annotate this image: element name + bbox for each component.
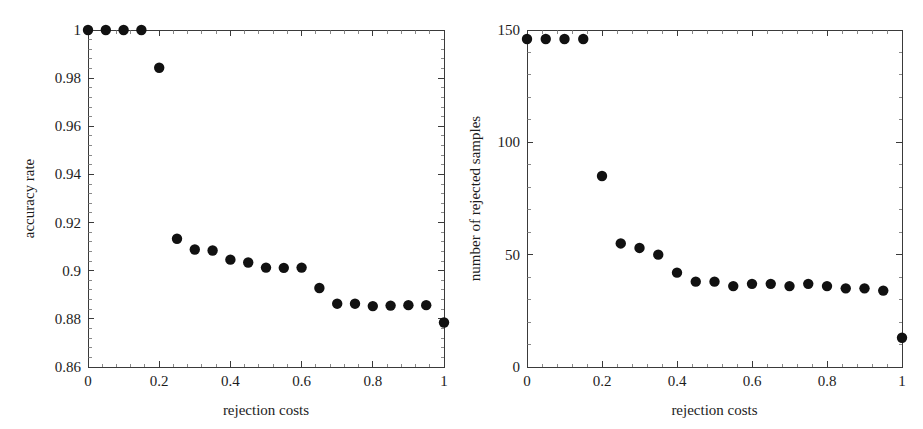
y-tick-label: 0.9 [62, 263, 81, 279]
y-axis-title: accuracy rate [21, 158, 37, 238]
x-tick-label: 0.8 [818, 373, 837, 389]
data-point [578, 34, 588, 44]
data-point [691, 276, 701, 286]
figure-two-panel-scatter: 00.20.40.60.810.860.880.90.920.940.960.9… [0, 0, 923, 429]
data-point [616, 238, 626, 248]
x-tick-label: 0.8 [363, 373, 382, 389]
data-point [597, 171, 607, 181]
accuracy-rate-scatter-svg: 00.20.40.60.810.860.880.90.920.940.960.9… [0, 0, 462, 429]
data-point [118, 25, 128, 35]
data-point [559, 34, 569, 44]
x-tick-label: 0.6 [292, 373, 311, 389]
data-point [728, 281, 738, 291]
data-point [747, 279, 757, 289]
y-tick-label: 0.96 [55, 118, 82, 134]
data-point [243, 257, 253, 267]
data-point [803, 279, 813, 289]
y-tick-label: 0.88 [55, 311, 81, 327]
data-point [421, 300, 431, 310]
data-point [350, 298, 360, 308]
data-point [841, 283, 851, 293]
y-tick-label: 0.92 [55, 215, 81, 231]
x-tick-label: 0.2 [593, 373, 612, 389]
x-axis-title: rejection costs [223, 402, 309, 418]
data-point [296, 262, 306, 272]
y-tick-label: 50 [505, 247, 520, 263]
data-point [784, 281, 794, 291]
plot-frame [527, 30, 902, 367]
data-point [279, 263, 289, 273]
data-point [403, 300, 413, 310]
x-tick-label: 0.6 [743, 373, 762, 389]
chart-panel-accuracy-rate: 00.20.40.60.810.860.880.90.920.940.960.9… [0, 0, 462, 429]
data-point [897, 333, 907, 343]
data-point [101, 25, 111, 35]
data-point [709, 276, 719, 286]
y-tick-label: 100 [498, 134, 521, 150]
y-tick-label: 0.86 [55, 359, 82, 375]
x-tick-label: 0 [84, 373, 92, 389]
data-point [261, 262, 271, 272]
data-point [439, 317, 449, 327]
data-point [672, 267, 682, 277]
data-point [385, 300, 395, 310]
data-point [136, 25, 146, 35]
data-point [522, 34, 532, 44]
chart-panel-rejected-samples: 00.20.40.60.81050100150rejection costsnu… [462, 0, 923, 429]
data-point [766, 279, 776, 289]
data-point [822, 281, 832, 291]
x-tick-label: 0.4 [668, 373, 687, 389]
y-tick-label: 1 [74, 22, 82, 38]
data-point [859, 283, 869, 293]
data-point [154, 63, 164, 73]
x-tick-label: 0 [523, 373, 531, 389]
data-point [225, 254, 235, 264]
data-point [172, 233, 182, 243]
x-tick-label: 0.2 [150, 373, 169, 389]
data-point [653, 249, 663, 259]
data-point [368, 301, 378, 311]
data-point [83, 25, 93, 35]
x-tick-label: 1 [440, 373, 448, 389]
data-point [332, 298, 342, 308]
data-point [541, 34, 551, 44]
plot-frame [88, 30, 444, 367]
x-tick-label: 0.4 [221, 373, 240, 389]
y-axis-title: number of rejected samples [467, 116, 483, 282]
y-tick-label: 0.94 [55, 166, 82, 182]
x-axis-title: rejection costs [671, 402, 757, 418]
data-point [634, 243, 644, 253]
data-point [190, 244, 200, 254]
y-tick-label: 0 [513, 359, 521, 375]
data-point [207, 245, 217, 255]
x-tick-label: 1 [898, 373, 906, 389]
rejected-samples-scatter-svg: 00.20.40.60.81050100150rejection costsnu… [462, 0, 923, 429]
data-point [314, 283, 324, 293]
y-tick-label: 0.98 [55, 70, 81, 86]
data-point [878, 285, 888, 295]
y-tick-label: 150 [498, 22, 521, 38]
